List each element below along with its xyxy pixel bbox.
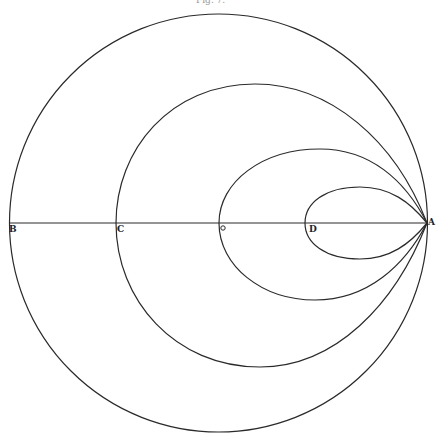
label-A: A (428, 218, 435, 227)
diagram-figure (0, 0, 442, 435)
point-O-marker (221, 226, 225, 230)
label-D: D (309, 225, 317, 234)
curve-through-O (219, 149, 427, 300)
label-C: C (117, 225, 124, 234)
label-B: B (9, 225, 17, 234)
curve-through-C (116, 84, 427, 367)
